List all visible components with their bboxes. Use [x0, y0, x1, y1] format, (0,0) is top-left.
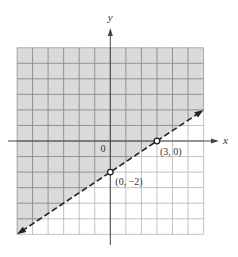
open-circle-marker — [154, 138, 160, 144]
origin-label: 0 — [101, 143, 106, 154]
open-circle-marker — [108, 169, 114, 175]
y-axis-arrow-icon — [108, 28, 113, 36]
inequality-chart: y x 0 (3, 0) (0, −2) — [0, 0, 238, 257]
x-axis-label: x — [222, 134, 228, 146]
x-axis-arrow-icon — [211, 139, 219, 144]
y-axis-label: y — [107, 11, 113, 23]
point-label-3-0: (3, 0) — [160, 146, 182, 158]
point-label-0-neg2: (0, −2) — [115, 176, 142, 188]
